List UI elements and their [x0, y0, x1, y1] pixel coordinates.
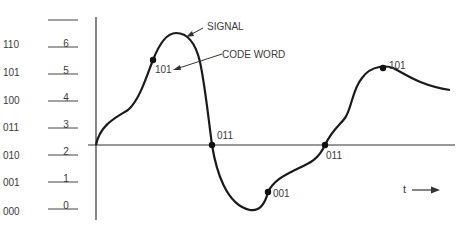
signal-pointer-arrowhead-icon [186, 31, 194, 37]
level-label: 6 [56, 39, 76, 49]
sample-label: 011 [326, 151, 342, 161]
code-label: 001 [3, 178, 20, 188]
code-label: 011 [3, 123, 19, 133]
time-label: t [403, 184, 406, 194]
level-label: 2 [56, 147, 76, 157]
level-label: 5 [56, 66, 76, 76]
sample-dot [209, 142, 215, 148]
sample-label: 101 [389, 61, 406, 71]
level-label: 4 [56, 93, 76, 103]
sample-dot [322, 142, 328, 148]
time-arrow-icon [431, 187, 440, 194]
sample-dot [150, 57, 156, 63]
sample-label: 001 [273, 189, 290, 199]
codeword-annotation: CODE WORD [222, 50, 285, 60]
code-label: 100 [3, 96, 20, 106]
signal-annotation: SIGNAL [207, 22, 244, 32]
sample-dots [150, 57, 386, 195]
sample-dot [265, 189, 271, 195]
sample-label: 011 [217, 131, 233, 141]
level-label: 1 [56, 174, 76, 184]
level-label: 0 [56, 201, 76, 211]
code-label: 010 [3, 151, 20, 161]
code-label: 110 [3, 40, 19, 50]
code-label: 000 [3, 207, 20, 217]
sample-label: 101 [155, 65, 172, 75]
code-label: 101 [3, 68, 20, 78]
codeword-pointer-arrowhead-icon [173, 65, 181, 70]
level-label: 3 [56, 120, 76, 130]
sample-dot [380, 65, 386, 71]
